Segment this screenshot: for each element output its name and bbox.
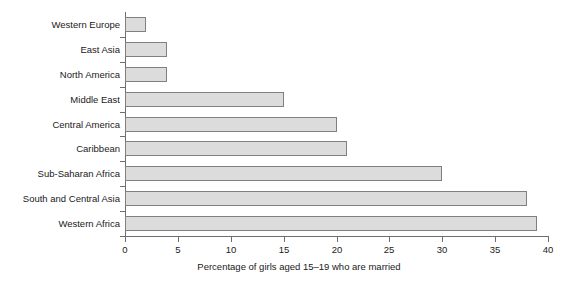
y-axis-tick: [120, 211, 125, 212]
y-axis-tick: [120, 136, 125, 137]
y-axis-tick: [120, 186, 125, 187]
bar: [125, 117, 337, 132]
bar: [125, 166, 442, 181]
plot-area: [125, 12, 548, 236]
bar: [125, 191, 527, 206]
x-axis-tick-label: 35: [475, 244, 515, 255]
category-label: Middle East: [0, 94, 120, 105]
x-axis-tick-label: 15: [264, 244, 304, 255]
x-axis-tick-label: 25: [369, 244, 409, 255]
x-axis-title: Percentage of girls aged 15–19 who are m…: [0, 261, 562, 272]
category-label: Western Europe: [0, 19, 120, 30]
x-axis-tick-label: 10: [211, 244, 251, 255]
x-axis-tick: [337, 237, 338, 242]
x-axis-tick-label: 30: [422, 244, 462, 255]
x-axis-tick: [495, 237, 496, 242]
y-axis-tick: [120, 37, 125, 38]
x-axis-title-text: Percentage of girls aged 15–19 who are m…: [197, 261, 400, 272]
x-axis-tick-label: 5: [158, 244, 198, 255]
x-axis-tick: [548, 237, 549, 242]
y-axis-tick: [120, 161, 125, 162]
bar: [125, 17, 146, 32]
y-axis-tick: [120, 87, 125, 88]
bar-chart: Western EuropeEast AsiaNorth AmericaMidd…: [0, 0, 562, 287]
x-axis-tick: [125, 237, 126, 242]
category-label: Western Africa: [0, 218, 120, 229]
category-label: Sub-Saharan Africa: [0, 168, 120, 179]
bar: [125, 67, 167, 82]
category-label: North America: [0, 69, 120, 80]
x-axis-tick: [231, 237, 232, 242]
y-axis-tick: [120, 62, 125, 63]
x-axis-tick: [389, 237, 390, 242]
category-label: South and Central Asia: [0, 193, 120, 204]
bar: [125, 92, 284, 107]
x-axis-tick: [284, 237, 285, 242]
category-label: Caribbean: [0, 143, 120, 154]
x-axis-tick: [442, 237, 443, 242]
x-axis-tick-label: 20: [317, 244, 357, 255]
x-axis-tick: [178, 237, 179, 242]
bar: [125, 42, 167, 57]
y-axis-tick: [120, 112, 125, 113]
category-label: Central America: [0, 119, 120, 130]
bar: [125, 141, 347, 156]
category-label: East Asia: [0, 44, 120, 55]
x-axis-tick-label: 0: [105, 244, 145, 255]
x-axis-tick-label: 40: [528, 244, 562, 255]
bar: [125, 216, 537, 231]
